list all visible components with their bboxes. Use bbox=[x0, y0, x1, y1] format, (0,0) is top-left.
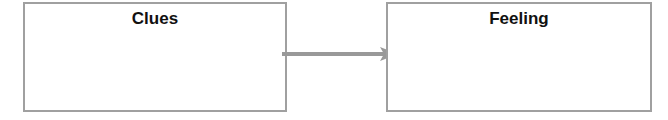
arrow-icon bbox=[282, 46, 398, 62]
clues-box: Clues bbox=[23, 2, 287, 112]
feeling-title: Feeling bbox=[388, 9, 650, 29]
feeling-box: Feeling bbox=[386, 2, 652, 112]
clues-title: Clues bbox=[25, 9, 285, 29]
